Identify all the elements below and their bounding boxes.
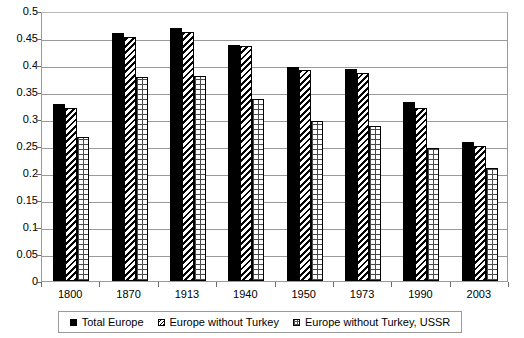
- bar-1870-series-1: [124, 37, 136, 281]
- bar-1990-series-0: [403, 102, 415, 281]
- x-axis-tick-mark: [216, 282, 217, 287]
- bar-1800-series-0: [53, 104, 65, 281]
- bar-2003-series-0: [462, 142, 474, 281]
- bar-1990-series-2: [427, 148, 439, 281]
- bar-1973-series-1: [357, 73, 369, 281]
- bar-1913-series-2: [194, 76, 206, 281]
- bar-1870-series-2: [136, 77, 148, 281]
- bar-1800-series-2: [77, 137, 89, 281]
- legend-label: Total Europe: [82, 316, 144, 328]
- bar-1800-series-1: [65, 108, 77, 281]
- y-axis-tick-label: 0.45: [2, 33, 38, 44]
- y-axis-tick-label: 0.15: [2, 195, 38, 206]
- diagonal-stripe-swatch-icon: [158, 319, 165, 326]
- bar-1950-series-2: [311, 121, 323, 281]
- x-axis-tick-label: 2003: [450, 288, 508, 300]
- bar-chart: 00.050.10.150.20.250.30.350.40.450.5 180…: [0, 0, 524, 338]
- x-axis-tick-mark: [41, 282, 42, 287]
- y-axis-tick-label: 0.4: [2, 60, 38, 71]
- legend-item-europe-without-turkey: Europe without Turkey: [158, 316, 279, 328]
- x-axis-tick-mark: [158, 282, 159, 287]
- legend-item-europe-without-turkey-ussr: Europe without Turkey, USSR: [293, 316, 450, 328]
- bar-1940-series-2: [252, 99, 264, 281]
- x-axis-tick-mark: [99, 282, 100, 287]
- legend-label: Europe without Turkey, USSR: [305, 316, 450, 328]
- bar-1940-series-0: [228, 45, 240, 281]
- bar-1990-series-1: [415, 108, 427, 281]
- solid-black-swatch-icon: [70, 319, 77, 326]
- x-axis-tick-mark: [333, 282, 334, 287]
- chart-legend: Total Europe Europe without Turkey Europ…: [58, 311, 462, 333]
- y-axis-tick-label: 0.5: [2, 6, 38, 17]
- bar-1940-series-1: [240, 46, 252, 281]
- y-axis-tick-label: 0: [2, 276, 38, 287]
- y-axis-tick-label: 0.2: [2, 168, 38, 179]
- bar-1913-series-0: [170, 28, 182, 281]
- bar-2003-series-2: [486, 168, 498, 281]
- y-axis-tick-label: 0.25: [2, 141, 38, 152]
- bar-1950-series-1: [299, 70, 311, 281]
- bar-1973-series-2: [369, 126, 381, 281]
- x-axis-tick-label: 1913: [158, 288, 216, 300]
- plot-area: [41, 12, 508, 282]
- x-axis-tick-label: 1973: [333, 288, 391, 300]
- x-axis-tick-mark: [508, 282, 509, 287]
- x-axis-tick-label: 1950: [275, 288, 333, 300]
- y-axis-tick-label: 0.05: [2, 249, 38, 260]
- bar-1950-series-0: [287, 67, 299, 281]
- y-axis-tick-label: 0.1: [2, 222, 38, 233]
- bar-1913-series-1: [182, 32, 194, 281]
- bar-2003-series-1: [474, 146, 486, 281]
- bar-1973-series-0: [345, 69, 357, 281]
- x-axis-tick-label: 1800: [41, 288, 99, 300]
- x-axis-tick-label: 1990: [391, 288, 449, 300]
- x-axis-tick-label: 1940: [216, 288, 274, 300]
- x-axis-tick-mark: [275, 282, 276, 287]
- legend-label: Europe without Turkey: [170, 316, 279, 328]
- x-axis-tick-mark: [391, 282, 392, 287]
- x-axis-tick-label: 1870: [99, 288, 157, 300]
- legend-item-total-europe: Total Europe: [70, 316, 144, 328]
- bar-1870-series-0: [112, 33, 124, 281]
- crosshatch-swatch-icon: [293, 319, 300, 326]
- y-axis-tick-label: 0.3: [2, 114, 38, 125]
- x-axis-tick-mark: [450, 282, 451, 287]
- y-axis-tick-label: 0.35: [2, 87, 38, 98]
